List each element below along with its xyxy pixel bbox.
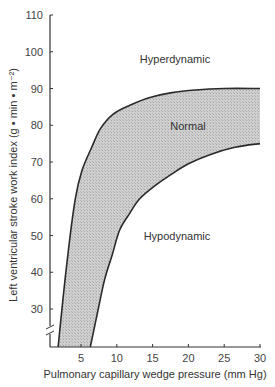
x-tick-label: 10: [111, 352, 123, 364]
y-tick-label: 60: [31, 193, 43, 205]
x-tick-label: 5: [78, 352, 84, 364]
x-tick-label: 25: [218, 352, 230, 364]
x-tick-label: 20: [182, 352, 194, 364]
region-label-hyperdynamic: Hyperdynamic: [140, 53, 211, 65]
region-label-normal: Normal: [170, 120, 205, 132]
y-axis-title: Left ventricular stroke work index (g • …: [7, 68, 19, 302]
x-tick-label: 15: [146, 352, 158, 364]
y-tick-label: 40: [31, 266, 43, 278]
x-axis-title: Pulmonary capillary wedge pressure (mm H…: [43, 368, 266, 380]
y-tick-label: 80: [31, 119, 43, 131]
normal-band-area: [58, 88, 260, 347]
y-tick-label: 30: [31, 303, 43, 315]
region-label-hypodynamic: Hypodynamic: [144, 230, 211, 242]
y-tick-label: 50: [31, 230, 43, 242]
normal-band-fill: [58, 88, 260, 347]
y-tick-label: 90: [31, 83, 43, 95]
x-tick-label: 30: [254, 352, 266, 364]
chart-svg: 3040506070809010011051015202530Pulmonary…: [0, 0, 275, 387]
y-tick-label: 70: [31, 156, 43, 168]
axis-break-icon: [46, 325, 54, 335]
y-tick-label: 100: [25, 46, 43, 58]
y-tick-label: 110: [25, 9, 43, 21]
